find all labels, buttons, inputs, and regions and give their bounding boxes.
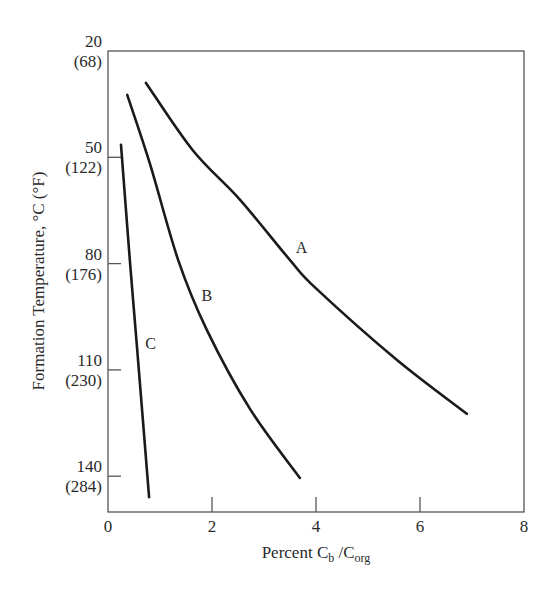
x-axis-title-main: Percent C xyxy=(262,543,329,562)
curve-label-a: A xyxy=(296,239,308,256)
y-tick-label-fahrenheit: (176) xyxy=(65,265,102,284)
y-tick-label-celsius: 140 xyxy=(77,457,103,476)
curve-b xyxy=(127,95,300,478)
chart-figure: 02468 20(68)50(122)80(176)110(230)140(28… xyxy=(0,0,549,591)
x-axis-title-sep: /C xyxy=(334,543,354,562)
y-axis-title: Formation Temperature, °C (°F) xyxy=(29,172,48,391)
y-tick-label-fahrenheit: (122) xyxy=(65,158,102,177)
y-tick-label-celsius: 110 xyxy=(77,351,102,370)
x-axis-title: Percent Cb /Corg xyxy=(262,543,371,565)
y-tick-label-celsius: 80 xyxy=(85,245,102,264)
x-tick-label: 2 xyxy=(208,517,217,536)
curve-c xyxy=(121,145,149,497)
x-axis-title-sub-org: org xyxy=(355,551,371,565)
y-tick-label-fahrenheit: (284) xyxy=(65,477,102,496)
y-tick-label-celsius: 20 xyxy=(85,32,102,51)
curve-label-b: B xyxy=(201,287,212,304)
x-tick-label: 8 xyxy=(520,517,529,536)
y-tick-label-celsius: 50 xyxy=(85,138,102,157)
x-tick-label: 4 xyxy=(312,517,321,536)
x-axis: 02468 xyxy=(104,497,529,536)
y-axis: 20(68)50(122)80(176)110(230)140(284) xyxy=(65,32,121,496)
plot-curves: ABC xyxy=(121,83,467,497)
x-tick-label: 0 xyxy=(104,517,113,536)
y-tick-label-fahrenheit: (230) xyxy=(65,371,102,390)
x-tick-label: 6 xyxy=(416,517,425,536)
curve-label-c: C xyxy=(145,335,156,352)
y-tick-label-fahrenheit: (68) xyxy=(74,52,102,71)
